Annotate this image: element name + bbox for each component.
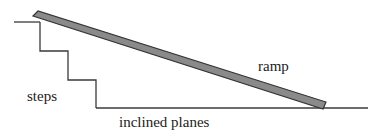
steps-label: steps: [27, 88, 57, 104]
ramp-label: ramp: [258, 58, 289, 74]
inclined-planes-diagram: ramp steps inclined planes: [0, 0, 387, 132]
caption-label: inclined planes: [119, 114, 210, 130]
